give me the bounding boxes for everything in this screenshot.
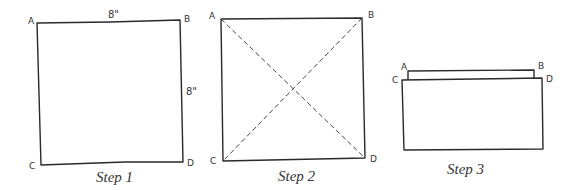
step-1-side-dimension: 8" (186, 86, 197, 97)
step-1-corner-b: B (184, 14, 190, 24)
step-2-corner-a: A (209, 11, 216, 21)
step-1-square (37, 20, 183, 165)
step-2-corner-c: C (210, 156, 216, 166)
step-1: A B C D 8" 8" Step 1 (28, 9, 197, 185)
step-1-caption: Step 1 (96, 169, 133, 185)
step-2-caption: Step 2 (278, 168, 316, 184)
step-1-top-dimension: 8" (108, 9, 119, 20)
step-2-fold-line-bc (223, 18, 362, 161)
step-3-corner-d: D (546, 74, 553, 84)
step-2-corner-b: B (368, 10, 374, 20)
step-3-caption: Step 3 (447, 161, 484, 177)
folding-diagram: A B C D 8" 8" Step 1 A B C D Step 2 A B … (0, 0, 574, 190)
step-1-corner-c: C (29, 161, 35, 171)
step-1-corner-d: D (187, 158, 194, 168)
step-3-corner-b: B (538, 61, 544, 71)
step-3: A B C D Step 3 (392, 61, 553, 177)
step-2: A B C D Step 2 (209, 10, 377, 184)
step-3-folded-rectangle (402, 78, 543, 150)
step-3-corner-a: A (401, 62, 408, 72)
step-2-corner-d: D (370, 154, 377, 164)
step-3-corner-c: C (392, 75, 398, 85)
step-1-corner-a: A (28, 16, 35, 26)
